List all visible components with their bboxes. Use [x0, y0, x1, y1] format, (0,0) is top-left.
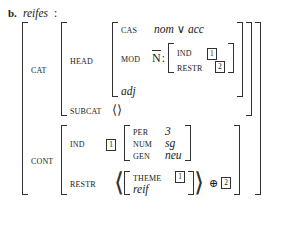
cat-rows: HEAD CAS nom ∨ acc	[70, 22, 243, 116]
attr-subcat: SUBCAT	[70, 104, 112, 116]
attr-cont: CONT	[31, 154, 61, 166]
lexeme-text: reifes	[23, 7, 48, 19]
value-gen: neu	[165, 149, 182, 161]
attr-mod: MOD	[121, 52, 151, 64]
attr-cat: CAT	[31, 63, 61, 75]
spacer-ind-restr	[70, 161, 231, 171]
subcat-row: SUBCAT ⟨⟩	[70, 104, 243, 116]
tag-cont-ind: 1	[106, 139, 116, 151]
restr-list: ⟨ THEME 1 reif	[114, 171, 204, 195]
spacer-cat-cont	[31, 116, 252, 125]
attr-gen: GEN	[133, 149, 165, 161]
cat-bracket-left	[61, 22, 67, 116]
value-head-type: adj	[121, 85, 136, 97]
feature-structure-avm: CAT HEAD CAS	[22, 22, 261, 195]
mod-bracket-right	[228, 43, 234, 73]
outer-bracket-right	[255, 22, 261, 195]
restr-element-matrix: THEME 1 reif	[124, 171, 194, 195]
example-letter: b.	[8, 7, 17, 19]
example-label-row: b. reifes:	[8, 7, 57, 19]
mod-row: MOD N: IND 1	[121, 43, 234, 73]
cont-rows: IND 1 PER 3 NUM	[70, 125, 231, 195]
cas-row: CAS nom ∨ acc	[121, 22, 234, 36]
spacer-head-subcat	[70, 97, 243, 104]
cont-bracket-right	[234, 125, 240, 195]
outer-bracket-left	[22, 22, 28, 195]
head-type-row: adj	[121, 85, 234, 97]
head-bracket-left	[112, 22, 118, 97]
index-bracket-right	[185, 125, 191, 161]
mod-bracket-left	[168, 43, 174, 73]
cont-value-matrix: IND 1 PER 3 NUM	[61, 125, 240, 195]
num-row: NUM sg	[133, 137, 182, 149]
attr-mod-restr: RESTR	[177, 61, 215, 73]
restr-rows: THEME 1 reif	[133, 171, 185, 195]
value-restr-type: reif	[133, 183, 149, 195]
mod-ind-tag-cell: 1	[207, 43, 225, 61]
tag-mod-ind: 1	[207, 48, 217, 60]
cat-value-matrix: HEAD CAS nom ∨ acc	[61, 22, 252, 116]
attr-head: HEAD	[70, 54, 112, 66]
spacer-mod-type	[121, 73, 234, 85]
mod-value-matrix: IND 1 RESTR 2	[168, 43, 234, 73]
restr-type-row: reif	[133, 183, 185, 195]
tag-theme: 1	[175, 171, 185, 183]
attr-mod-ind: IND	[177, 46, 207, 58]
cont-ind-row: IND 1 PER 3 NUM	[70, 125, 231, 161]
per-row: PER 3	[133, 125, 182, 137]
attr-num: NUM	[133, 137, 165, 149]
cont-bracket-left	[61, 125, 67, 195]
head-bracket-right	[237, 22, 243, 97]
value-per: 3	[165, 125, 171, 137]
head-value-matrix: CAS nom ∨ acc MOD N:	[112, 22, 243, 97]
cont-ind-tag-cell: 1	[106, 134, 124, 152]
head-row: HEAD CAS nom ∨ acc	[70, 22, 243, 97]
mod-colon: :	[162, 52, 165, 64]
subcat-empty-list: ⟨⟩	[112, 105, 122, 114]
head-rows: CAS nom ∨ acc MOD N:	[121, 22, 234, 97]
attr-cas: CAS	[121, 23, 154, 35]
value-num: sg	[165, 137, 175, 149]
mod-rows: IND 1 RESTR 2	[177, 43, 225, 73]
mod-ind-row: IND 1	[177, 43, 225, 61]
attr-cont-ind: IND	[70, 137, 106, 149]
index-rows: PER 3 NUM sg GEN neu	[133, 125, 182, 161]
lexeme-colon: :	[54, 7, 57, 19]
angle-open: ⟨	[114, 171, 124, 195]
cont-row: CONT IND 1 PER	[31, 125, 252, 195]
attr-per: PER	[133, 125, 165, 137]
tag-mod-restr: 2	[215, 61, 225, 73]
restr-bracket-left	[124, 171, 130, 195]
angle-close: ⟩	[194, 171, 204, 195]
tag-append: 2	[221, 177, 231, 189]
spacer-cas-mod	[121, 36, 234, 43]
cat-bracket-right	[246, 22, 252, 116]
index-bracket-left	[124, 125, 130, 161]
gen-row: GEN neu	[133, 149, 182, 161]
theme-row: THEME 1	[133, 171, 185, 183]
outer-matrix: CAT HEAD CAS	[22, 22, 261, 195]
cat-row: CAT HEAD CAS	[31, 22, 252, 116]
value-cas: nom ∨ acc	[154, 22, 204, 36]
outer-rows: CAT HEAD CAS	[31, 22, 252, 195]
attr-theme: THEME	[133, 171, 175, 183]
append-operator-icon: ⊕	[204, 177, 221, 190]
index-value-matrix: PER 3 NUM sg GEN neu	[124, 125, 191, 161]
mod-restr-row: RESTR 2	[177, 61, 225, 73]
cont-restr-row: RESTR ⟨ THEME 1	[70, 171, 231, 195]
nbar-category-icon: N	[151, 51, 162, 66]
attr-cont-restr: RESTR	[70, 177, 114, 189]
